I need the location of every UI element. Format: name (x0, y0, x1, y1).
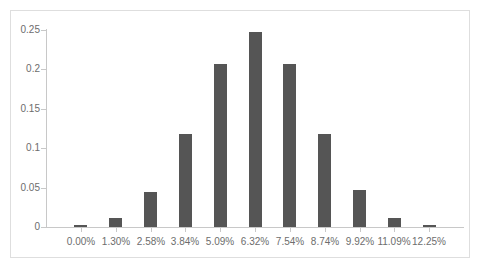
bar (109, 218, 122, 227)
y-axis-tick-label: 0.25 (4, 25, 40, 35)
bar (353, 190, 366, 227)
bar (179, 134, 192, 227)
y-axis-tick-label-wrap: 0.1 (0, 143, 40, 153)
x-axis-tick (325, 228, 326, 232)
x-axis-tick-label: 0.00% (67, 236, 95, 247)
histogram-chart: 00.050.10.150.20.25 0.00%1.30%2.58%3.84%… (0, 0, 482, 268)
y-axis-tick-label: 0.15 (4, 104, 40, 114)
x-axis-tick (220, 228, 221, 232)
bar (249, 32, 262, 227)
bar (144, 192, 157, 227)
x-axis-tick-label: 9.92% (346, 236, 374, 247)
bar (388, 218, 401, 227)
y-axis-tick-label-wrap: 0.05 (0, 183, 40, 193)
bar (283, 64, 296, 227)
y-axis-tick-label-wrap: 0.25 (0, 25, 40, 35)
y-axis-tick-label: 0 (4, 222, 40, 232)
y-axis-tick-label: 0.1 (4, 143, 40, 153)
x-axis-tick-label: 5.09% (206, 236, 234, 247)
y-axis-tick-label-wrap: 0 (0, 222, 40, 232)
x-axis-tick-label: 8.74% (311, 236, 339, 247)
bar-series (46, 30, 464, 227)
x-axis-tick (255, 228, 256, 232)
x-axis-tick-label: 3.84% (171, 236, 199, 247)
bar (423, 225, 436, 227)
x-axis-tick (360, 228, 361, 232)
x-axis-tick-label: 1.30% (102, 236, 130, 247)
y-axis-tick-label-wrap: 0.15 (0, 104, 40, 114)
x-axis-tick (151, 228, 152, 232)
bar (318, 134, 331, 227)
y-axis-tick (41, 227, 46, 228)
x-axis-tick-label: 2.58% (137, 236, 165, 247)
x-axis-tick (81, 228, 82, 232)
bar (214, 64, 227, 227)
y-axis-tick-label-wrap: 0.2 (0, 64, 40, 74)
y-axis-tick-label: 0.05 (4, 183, 40, 193)
x-axis-tick (429, 228, 430, 232)
x-axis-tick-label: 7.54% (276, 236, 304, 247)
bar (74, 225, 87, 227)
x-axis-tick-label: 11.09% (377, 236, 410, 247)
x-axis-tick-label: 12.25% (412, 236, 446, 247)
x-axis-tick (116, 228, 117, 232)
x-axis-tick (394, 228, 395, 232)
x-axis-tick (185, 228, 186, 232)
x-axis-tick-label: 6.32% (241, 236, 269, 247)
x-axis-tick (290, 228, 291, 232)
y-axis-tick-label: 0.2 (4, 64, 40, 74)
